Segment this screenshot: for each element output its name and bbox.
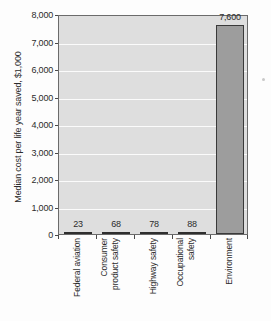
y-tick-label: 7,000: [31, 38, 53, 48]
bar-value-label: 88: [187, 219, 197, 229]
x-category-label-line: Consumer: [99, 238, 110, 316]
bar-slot: 23: [64, 16, 91, 234]
bar-value-label: 68: [111, 219, 121, 229]
y-tick-label: 8,000: [31, 10, 53, 20]
x-category-label: Federal aviation: [72, 238, 100, 316]
x-category-label-line: Occupational: [175, 238, 186, 316]
x-category-label: Consumerproduct safety: [99, 238, 127, 316]
bar-value-label: 78: [149, 219, 159, 229]
x-category-label: Highway safety: [148, 238, 176, 316]
bar[interactable]: [178, 232, 205, 234]
image-artifact-speck: [262, 78, 265, 81]
x-category-label-line: product safety: [110, 238, 121, 316]
bar[interactable]: [102, 232, 129, 234]
bar[interactable]: [140, 232, 167, 234]
x-tick-mark: [134, 235, 135, 239]
y-axis-tick-labels: 01,0002,0003,0004,0005,0006,0007,0008,00…: [18, 15, 58, 235]
x-category-label-line: safety: [186, 238, 197, 316]
bar[interactable]: [216, 25, 243, 234]
bar[interactable]: [64, 232, 91, 234]
x-axis-category-labels: Federal aviationConsumerproduct safetyHi…: [58, 240, 248, 318]
bar-slot: 88: [178, 16, 205, 234]
x-category-label: Environment: [224, 238, 252, 316]
x-category-label-line: Federal aviation: [72, 238, 83, 316]
x-tick-mark: [210, 235, 211, 239]
x-category-label: Occupationalsafety: [175, 238, 203, 316]
y-tick-label: 6,000: [31, 65, 53, 75]
y-tick-label: 5,000: [31, 93, 53, 103]
bar-slot: 68: [102, 16, 129, 234]
bar-slot: 7,600: [216, 16, 243, 234]
y-tick-label: 3,000: [31, 148, 53, 158]
bar-slot: 78: [140, 16, 167, 234]
y-tick-label: 2,000: [31, 175, 53, 185]
y-tick-label: 0: [48, 230, 53, 240]
y-tick-label: 1,000: [31, 203, 53, 213]
y-tick-label: 4,000: [31, 120, 53, 130]
plot-area: 236878887,600: [58, 15, 248, 235]
bar-value-label: 23: [73, 219, 83, 229]
bars-layer: 236878887,600: [59, 16, 247, 234]
bar-value-label: 7,600: [219, 12, 241, 22]
x-tick-mark: [58, 235, 59, 239]
bar-chart-figure: Median cost per life year saved, $1,000 …: [0, 0, 271, 321]
x-category-label-line: Highway safety: [148, 238, 159, 316]
x-category-label-line: Environment: [224, 238, 235, 316]
